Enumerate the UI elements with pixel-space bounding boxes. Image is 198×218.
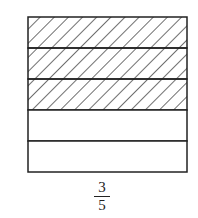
denominator: 5 [92, 198, 112, 213]
shaded-strip [28, 79, 187, 110]
unshaded-strip [28, 110, 187, 141]
numerator: 3 [92, 180, 112, 195]
shaded-strip [28, 48, 187, 79]
shaded-strip [28, 17, 187, 48]
fraction-label: 3 5 [92, 180, 112, 213]
unshaded-strip [28, 141, 187, 172]
